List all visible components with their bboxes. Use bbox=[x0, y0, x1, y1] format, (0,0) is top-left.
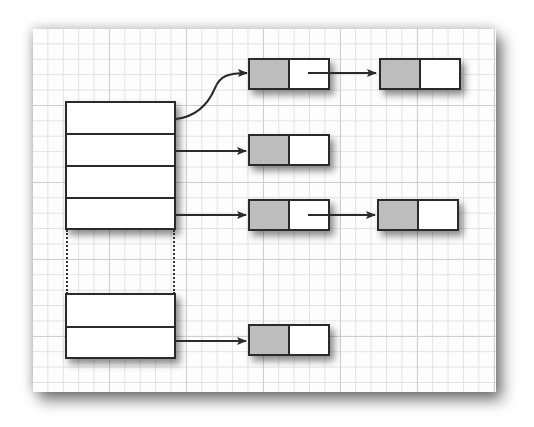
bucket-array-lower bbox=[65, 293, 176, 359]
bucket-divider bbox=[67, 133, 174, 135]
node-data-field bbox=[381, 60, 421, 88]
bucket-divider bbox=[67, 165, 174, 167]
node-data-field bbox=[250, 326, 290, 354]
chain-node bbox=[248, 324, 330, 356]
node-next-field bbox=[419, 201, 457, 229]
node-next-field bbox=[290, 326, 328, 354]
node-next-field bbox=[421, 60, 459, 88]
node-next-field bbox=[290, 201, 328, 229]
node-data-field bbox=[250, 201, 290, 229]
node-data-field bbox=[379, 201, 419, 229]
chain-node bbox=[248, 134, 330, 166]
node-data-field bbox=[250, 136, 290, 164]
bucket-array-upper bbox=[65, 101, 176, 230]
bucket-divider bbox=[67, 197, 174, 199]
ellipsis-right bbox=[173, 230, 175, 294]
bucket-divider bbox=[67, 326, 174, 328]
chain-node bbox=[248, 199, 330, 231]
node-next-field bbox=[290, 60, 328, 88]
chain-node bbox=[379, 58, 461, 90]
node-next-field bbox=[290, 136, 328, 164]
node-data-field bbox=[250, 60, 290, 88]
chain-node bbox=[377, 199, 459, 231]
ellipsis-left bbox=[66, 230, 68, 294]
chain-node bbox=[248, 58, 330, 90]
